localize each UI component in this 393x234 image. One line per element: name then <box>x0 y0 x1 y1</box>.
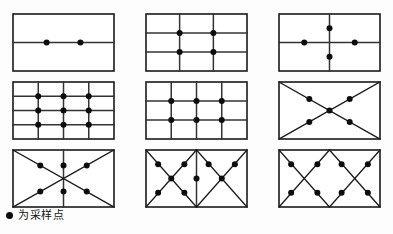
sample-point-4 <box>327 54 333 60</box>
sample-point-1 <box>177 30 183 36</box>
panel-4-nine-points-grid-3x3 <box>13 82 114 139</box>
sample-point-2 <box>181 161 187 167</box>
figure-canvas <box>0 0 393 234</box>
panel-3-four-points-cross <box>279 14 380 71</box>
sample-point-5 <box>61 189 67 195</box>
sample-point-6 <box>84 189 90 195</box>
panel-border <box>279 150 380 207</box>
sample-point-4 <box>232 161 238 167</box>
sample-point-1 <box>44 40 50 46</box>
sample-point-5 <box>347 119 353 125</box>
sample-point-1 <box>35 93 41 99</box>
sample-point-2 <box>301 40 307 46</box>
sample-point-4 <box>35 108 41 114</box>
sample-point-1 <box>306 96 312 102</box>
sample-point-6 <box>314 190 320 196</box>
sample-point-1 <box>37 162 43 168</box>
sample-point-2 <box>194 98 200 104</box>
sample-point-4 <box>168 117 174 123</box>
sample-point-6 <box>219 117 225 123</box>
sample-point-3 <box>84 162 90 168</box>
sample-point-4 <box>365 161 371 167</box>
sample-point-1 <box>288 161 294 167</box>
sample-point-3 <box>86 93 92 99</box>
sample-point-3 <box>206 161 212 167</box>
panel-2-four-points-grid-2x2 <box>146 14 247 71</box>
sample-point-1 <box>327 25 333 31</box>
sample-point-3 <box>219 98 225 104</box>
sample-point-9 <box>181 190 187 196</box>
caption-label: 为采样点 <box>18 210 64 221</box>
sample-point-1 <box>168 98 174 104</box>
sample-point-1 <box>155 161 161 167</box>
sample-point-4 <box>210 49 216 55</box>
panel-6-five-points-diagonal-cross <box>279 82 380 139</box>
sample-point-3 <box>177 49 183 55</box>
sample-point-2 <box>210 30 216 36</box>
sample-point-5 <box>288 190 294 196</box>
panel-border <box>146 14 247 71</box>
sample-point-2 <box>347 96 353 102</box>
sample-point-2 <box>314 161 320 167</box>
panel-1-two-points-on-midline <box>13 14 114 71</box>
sample-point-legend-icon <box>6 212 13 219</box>
sample-point-2 <box>61 93 67 99</box>
sample-point-4 <box>306 119 312 125</box>
sample-point-5 <box>168 176 174 182</box>
sample-point-4 <box>37 189 43 195</box>
sample-point-3 <box>327 108 333 114</box>
sample-point-8 <box>61 122 67 128</box>
sample-point-8 <box>155 190 161 196</box>
sample-point-5 <box>194 117 200 123</box>
sample-point-2 <box>61 162 67 168</box>
sampling-point-figure: 为采样点 <box>0 0 393 234</box>
sample-point-3 <box>352 40 358 46</box>
sample-point-9 <box>86 122 92 128</box>
panel-9-eight-points-zigzag-diagonals <box>279 150 380 207</box>
panel-5-six-points-grid-2x3 <box>146 82 247 139</box>
figure-caption: 为采样点 <box>6 210 64 221</box>
sample-point-7 <box>219 176 225 182</box>
sample-point-2 <box>77 40 83 46</box>
sample-point-8 <box>365 190 371 196</box>
sample-point-3 <box>339 161 345 167</box>
sample-point-6 <box>86 108 92 114</box>
sample-point-5 <box>61 108 67 114</box>
sample-point-7 <box>35 122 41 128</box>
sample-point-7 <box>339 190 345 196</box>
panel-8-nine-points-double-diagonal-cross <box>146 150 247 207</box>
panel-7-six-points-diagonal-cross-with-midline <box>13 150 114 207</box>
sample-point-6 <box>194 176 200 182</box>
